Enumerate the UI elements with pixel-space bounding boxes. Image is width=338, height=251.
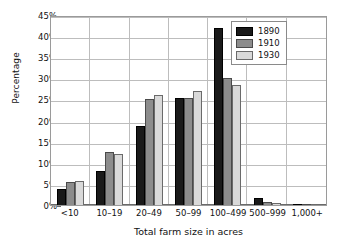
legend-item: 1890 bbox=[236, 25, 280, 37]
bar bbox=[254, 198, 263, 205]
bar bbox=[145, 99, 154, 205]
bar bbox=[272, 203, 281, 205]
bar bbox=[96, 171, 105, 205]
legend-item: 1910 bbox=[236, 37, 280, 49]
bar bbox=[57, 189, 66, 205]
legend-swatch bbox=[236, 51, 253, 60]
bar bbox=[75, 181, 84, 205]
bar-group bbox=[169, 17, 208, 205]
bar-group bbox=[130, 17, 169, 205]
bar-group bbox=[287, 17, 326, 205]
bar bbox=[66, 182, 75, 205]
bar bbox=[302, 204, 311, 205]
bar-group bbox=[90, 17, 129, 205]
x-tick-label: <10 bbox=[50, 208, 90, 218]
bar bbox=[154, 95, 163, 205]
bar bbox=[136, 126, 145, 205]
bar bbox=[184, 98, 193, 205]
x-axis-title: Total farm size in acres bbox=[50, 226, 327, 237]
legend-label: 1930 bbox=[258, 50, 280, 60]
legend-swatch bbox=[236, 39, 253, 48]
bar bbox=[263, 202, 272, 205]
bar bbox=[311, 204, 320, 205]
x-tick-label: 1,000+ bbox=[287, 208, 327, 218]
bar bbox=[175, 98, 184, 205]
x-tick-label: 20–49 bbox=[129, 208, 169, 218]
x-tick-label: 100–499 bbox=[208, 208, 248, 218]
bar bbox=[114, 154, 123, 205]
x-tick-label: 10–19 bbox=[90, 208, 130, 218]
bar bbox=[105, 152, 114, 205]
bar bbox=[193, 91, 202, 205]
legend-swatch bbox=[236, 27, 253, 36]
legend: 189019101930 bbox=[231, 21, 287, 65]
x-tick-label: 50–99 bbox=[169, 208, 209, 218]
x-axis-tick-labels: <1010–1920–4950–99100–499500–9991,000+ bbox=[50, 208, 327, 218]
bar-chart: Percentage 0%5%10%15%20%25%30%35%40%45% … bbox=[0, 0, 338, 251]
bar bbox=[214, 28, 223, 205]
bar bbox=[293, 204, 302, 205]
bar bbox=[232, 85, 241, 205]
bar-group bbox=[51, 17, 90, 205]
x-tick-label: 500–999 bbox=[248, 208, 288, 218]
legend-label: 1910 bbox=[258, 38, 280, 48]
bar bbox=[223, 78, 232, 205]
legend-label: 1890 bbox=[258, 26, 280, 36]
y-tick-mark bbox=[57, 206, 61, 207]
legend-item: 1930 bbox=[236, 49, 280, 61]
